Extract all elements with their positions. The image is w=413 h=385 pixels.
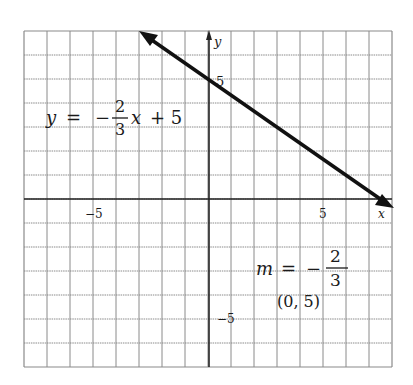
- equation-lhs: y: [45, 107, 57, 128]
- equation-rest: + 5: [150, 107, 182, 128]
- slope-numerator: 2: [330, 246, 341, 266]
- coordinate-plane: y x −5 5 5 −5 y = − 2 3 x + 5 m = − 2 3 …: [0, 0, 413, 385]
- x-tick-neg5: −5: [85, 207, 103, 221]
- equation-minus: −: [95, 107, 110, 128]
- point-label: (0, 5): [277, 292, 320, 311]
- slope-lhs: m: [256, 258, 273, 279]
- slope-minus: −: [306, 258, 321, 279]
- x-tick-5: 5: [319, 207, 327, 221]
- y-tick-neg5: −5: [217, 312, 235, 326]
- x-axis-label: x: [378, 207, 385, 221]
- slope-label: m = − 2 3: [256, 246, 348, 290]
- equation-equals: =: [66, 107, 81, 128]
- y-axis-label: y: [213, 34, 222, 49]
- equation-var: x: [131, 107, 141, 128]
- equation-denominator: 3: [115, 120, 125, 139]
- equation-numerator: 2: [115, 97, 125, 116]
- equation-label: y = − 2 3 x + 5: [42, 97, 194, 139]
- slope-equals: =: [281, 258, 296, 279]
- slope-denominator: 3: [330, 270, 341, 290]
